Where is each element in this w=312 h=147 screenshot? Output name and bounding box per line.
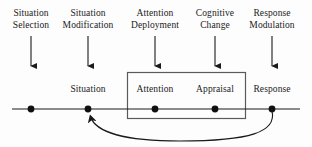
node-label-appraisal: Appraisal [196, 84, 234, 95]
stage-label-situation-modification: Situation Modification [63, 8, 114, 31]
timeline-node-start [28, 106, 35, 113]
stage-label-line1: Response [249, 8, 294, 20]
emotion-generation-box [128, 73, 246, 119]
stage-label-attention-deployment: Attention Deployment [131, 8, 179, 31]
stage-label-line2: Deployment [131, 20, 179, 32]
process-model-diagram: Situation Selection Situation Modificati… [0, 0, 312, 147]
timeline-node-appraisal [212, 106, 219, 113]
stage-label-line2: Modulation [249, 20, 294, 32]
node-label-attention: Attention [137, 84, 174, 95]
stage-label-line1: Situation [13, 8, 49, 20]
stage-label-line2: Change [196, 20, 234, 32]
stage-label-line1: Attention [131, 8, 179, 20]
stage-label-line2: Modification [63, 20, 114, 32]
stage-label-response-modulation: Response Modulation [249, 8, 294, 31]
stage-label-line1: Cognitive [196, 8, 234, 20]
timeline-node-situation [85, 106, 92, 113]
stage-label-situation-selection: Situation Selection [13, 8, 49, 31]
node-label-response: Response [253, 84, 290, 95]
stage-label-line2: Selection [13, 20, 49, 32]
stage-label-line1: Situation [63, 8, 114, 20]
timeline-node-attention [152, 106, 159, 113]
node-label-situation: Situation [70, 84, 105, 95]
stage-arrows-group [31, 36, 272, 66]
stage-label-cognitive-change: Cognitive Change [196, 8, 234, 31]
